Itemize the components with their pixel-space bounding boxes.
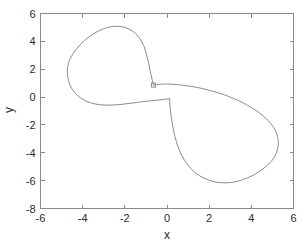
x-tick-label: -6 bbox=[36, 212, 46, 224]
y-tick-label: -6 bbox=[26, 175, 36, 187]
y-tick-label: -8 bbox=[26, 203, 36, 215]
y-tick-label: 4 bbox=[29, 35, 35, 47]
figure-background bbox=[0, 0, 306, 244]
x-tick-label: -4 bbox=[78, 212, 88, 224]
y-tick-label: -4 bbox=[26, 147, 36, 159]
x-axis-title: x bbox=[164, 228, 170, 242]
figure-canvas: -6-4-20246 -8-6-4-20246 x y bbox=[0, 0, 306, 244]
y-tick-label: 2 bbox=[29, 63, 35, 75]
y-tick-label: 0 bbox=[29, 91, 35, 103]
y-axis-title: y bbox=[2, 107, 16, 113]
x-tick-label: -2 bbox=[120, 212, 130, 224]
plot-svg: -6-4-20246 -8-6-4-20246 x y bbox=[0, 0, 306, 244]
y-tick-label: -2 bbox=[26, 119, 36, 131]
x-tick-label: 4 bbox=[248, 212, 254, 224]
x-tick-label: 0 bbox=[164, 212, 170, 224]
y-tick-label: 6 bbox=[29, 8, 35, 20]
x-tick-label: 2 bbox=[206, 212, 212, 224]
x-tick-label: 6 bbox=[290, 212, 296, 224]
